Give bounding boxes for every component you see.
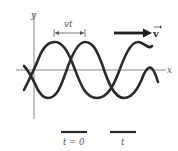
legend-label-t: t — [121, 137, 125, 147]
vt-dimension — [54, 29, 85, 37]
vt-label: vt — [64, 19, 73, 29]
wave-diagram: y x vt v t = 0 t — [0, 0, 178, 151]
x-axis-label: x — [167, 65, 172, 75]
y-axis-label: y — [30, 10, 37, 20]
velocity-label: v — [152, 28, 160, 39]
velocity-arrow-icon — [114, 29, 152, 38]
legend-label-t0: t = 0 — [63, 137, 85, 147]
